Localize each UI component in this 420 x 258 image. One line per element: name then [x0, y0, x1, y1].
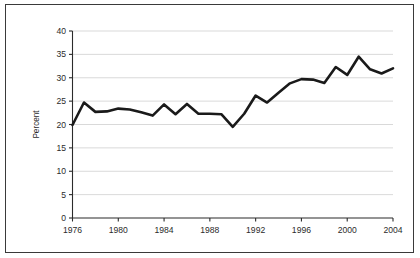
y-tick-labels: 0510152025303540	[56, 26, 66, 223]
y-tick-label: 20	[56, 120, 66, 130]
x-tick-label: 1988	[200, 225, 219, 235]
chart-figure: 0510152025303540 19761980198419881992199…	[0, 0, 420, 258]
y-tick-label: 40	[56, 26, 66, 36]
x-tick-label: 1992	[246, 225, 265, 235]
x-tick-label: 1976	[63, 225, 82, 235]
line-chart: 0510152025303540 19761980198419881992199…	[0, 0, 420, 258]
y-tick-label: 0	[61, 213, 66, 223]
x-tick-label: 2004	[383, 225, 402, 235]
y-tick-label: 35	[56, 49, 66, 59]
x-tick-label: 1996	[292, 225, 311, 235]
y-axis-title: Percent	[32, 110, 41, 139]
y-tick-label: 30	[56, 73, 66, 83]
gridlines-group	[73, 31, 394, 195]
x-tick-labels: 19761980198419881992199620002004	[63, 225, 403, 235]
x-tick-label: 2000	[338, 225, 357, 235]
x-tick-label: 1980	[109, 225, 128, 235]
y-tick-label: 25	[56, 96, 66, 106]
y-tick-label: 15	[56, 143, 66, 153]
y-tick-label: 5	[61, 190, 66, 200]
data-series-line	[73, 57, 394, 127]
y-tick-label: 10	[56, 166, 66, 176]
x-tick-label: 1984	[155, 225, 174, 235]
